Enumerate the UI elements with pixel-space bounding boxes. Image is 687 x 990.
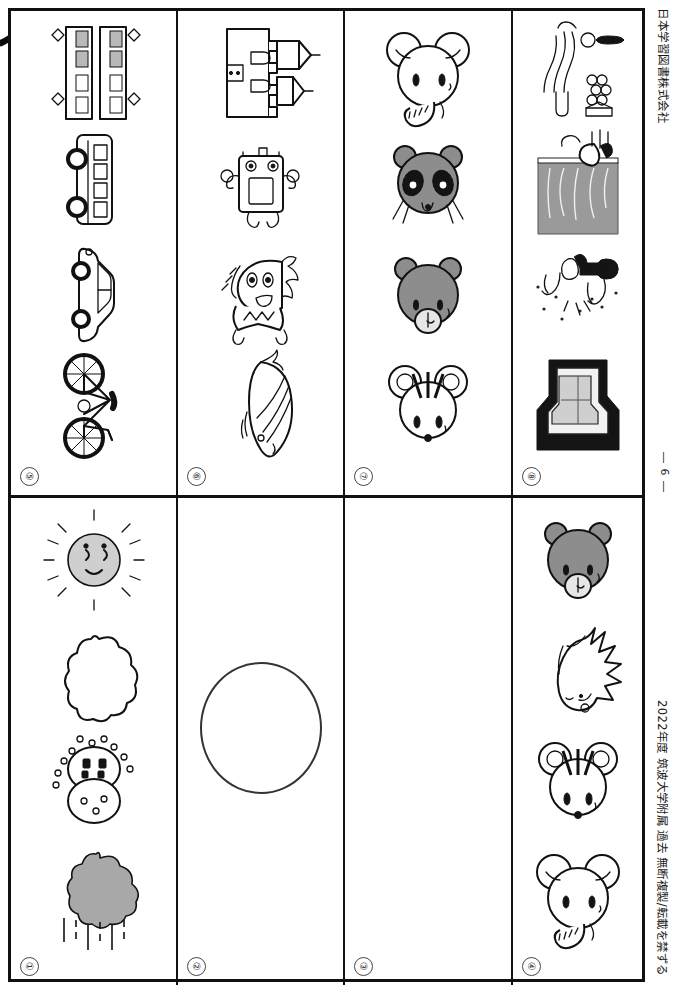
section-1-items [11,504,176,951]
summer-scene-picture[interactable] [514,132,642,236]
train-picture[interactable] [30,21,158,125]
roof-building-picture[interactable] [514,354,642,458]
section-index-1: ① [20,957,39,976]
mouse-picture[interactable] [514,731,642,835]
section-5-items [11,17,176,461]
section-3[interactable]: ③ [345,498,513,985]
car-picture[interactable] [30,243,158,347]
section-2-items [178,504,343,951]
panda-picture[interactable] [364,132,492,236]
section-index-7: ⑦ [354,467,373,486]
section-4-items [513,504,642,951]
worksheet-page: ノ [0,0,687,990]
grid-half-bottom: ① ② ③ [11,498,642,985]
ogre-picture[interactable] [197,243,325,347]
section-index-3: ③ [354,957,373,976]
cloud-picture[interactable] [30,620,158,724]
section-index-6: ⑥ [187,467,206,486]
section-5[interactable]: ⑤ [11,11,178,495]
section-index-2: ② [187,957,206,976]
bear-picture[interactable] [514,508,642,612]
bear-picture[interactable] [364,243,492,347]
elephant-picture[interactable] [364,21,492,125]
section-index-8: ⑧ [522,467,541,486]
answer-circle-cell[interactable] [197,676,325,780]
rain-cloud-picture[interactable] [30,843,158,947]
sun-picture[interactable] [30,508,158,612]
hedgehog-picture[interactable] [514,620,642,724]
castle-picture[interactable] [197,21,325,125]
section-1[interactable]: ① [11,498,178,985]
section-index-4: ④ [522,957,541,976]
section-8-items [513,17,642,461]
whale-picture[interactable] [197,354,325,458]
grid-half-top: ⑤ [11,11,642,498]
section-index-5: ⑤ [20,467,39,486]
copyright-notice: 2022年度 筑波大学附属 過去 無断複製/転載を禁ずる [655,700,671,975]
publisher-credit: 日本学習図書株式会社 [656,8,672,123]
answer-circle[interactable] [200,662,322,794]
section-6-items [178,17,343,461]
elephant-picture[interactable] [514,843,642,947]
exercise-grid: ⑤ [8,8,645,982]
robot-toy-picture[interactable] [197,132,325,236]
snow-cloud-picture[interactable] [30,731,158,835]
bus-picture[interactable] [30,132,158,236]
section-4[interactable]: ④ [513,498,642,985]
section-6[interactable]: ⑥ [178,11,345,495]
section-2[interactable]: ② [178,498,345,985]
bicycle-picture[interactable] [30,354,158,458]
page-number: ― 6 ― [658,452,671,493]
section-8[interactable]: ⑧ [513,11,642,495]
snow-play-picture[interactable] [514,243,642,347]
spring-plants-picture[interactable] [514,21,642,125]
section-7[interactable]: ⑦ [345,11,513,495]
mouse-picture[interactable] [364,354,492,458]
section-7-items [345,17,511,461]
section-3-items [345,504,511,951]
